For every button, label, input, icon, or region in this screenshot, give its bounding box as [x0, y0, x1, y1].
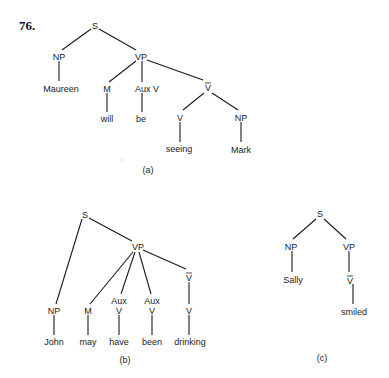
- node-np: NP: [48, 306, 61, 316]
- node-v-bar: V: [205, 83, 211, 93]
- node-v-3: V: [186, 306, 192, 316]
- tree-b: S VP NP M Aux V Aux V V V John may have …: [44, 210, 206, 365]
- tree-c: S NP VP Sally V smiled (c): [283, 209, 367, 363]
- node-m: M: [103, 84, 111, 94]
- leaf-maureen: Maureen: [43, 84, 79, 94]
- caption-a: (a): [143, 165, 154, 175]
- node-vp: VP: [343, 242, 355, 252]
- node-m: M: [84, 306, 92, 316]
- node-np-object: NP: [235, 113, 248, 123]
- node-aux-v: Aux V: [135, 84, 159, 94]
- syntax-tree-figure: 76. S NP VP Maureen M Aux V will be V V …: [0, 0, 389, 378]
- speck: [121, 159, 123, 161]
- leaf-john: John: [44, 337, 64, 347]
- leaf-may: may: [79, 337, 97, 347]
- leaf-drinking: drinking: [174, 337, 206, 347]
- leaf-mark: Mark: [231, 145, 251, 155]
- leaf-be: be: [136, 114, 146, 124]
- node-v-bar: V: [347, 276, 353, 286]
- node-v-1: V: [116, 306, 122, 316]
- node-vp: VP: [132, 242, 144, 252]
- tree-a: S NP VP Maureen M Aux V will be V V NP s…: [43, 21, 251, 175]
- caption-c: (c): [317, 353, 328, 363]
- node-v: V: [177, 113, 183, 123]
- leaf-seeing: seeing: [166, 144, 193, 154]
- node-vp: VP: [135, 52, 147, 62]
- node-np: NP: [285, 242, 298, 252]
- node-v-2: V: [149, 306, 155, 316]
- node-s: S: [317, 209, 323, 219]
- leaf-will: will: [100, 114, 114, 124]
- node-aux-1: Aux: [111, 296, 127, 306]
- figure-number: 76.: [19, 18, 35, 33]
- leaf-have: have: [109, 337, 129, 347]
- node-aux-2: Aux: [144, 296, 160, 306]
- caption-b: (b): [120, 355, 131, 365]
- leaf-sally: Sally: [283, 275, 303, 285]
- node-np: NP: [53, 52, 66, 62]
- leaf-been: been: [142, 337, 162, 347]
- node-s: S: [82, 210, 88, 220]
- leaf-smiled: smiled: [341, 307, 367, 317]
- node-s: S: [92, 21, 98, 31]
- node-v-bar: V: [186, 273, 192, 283]
